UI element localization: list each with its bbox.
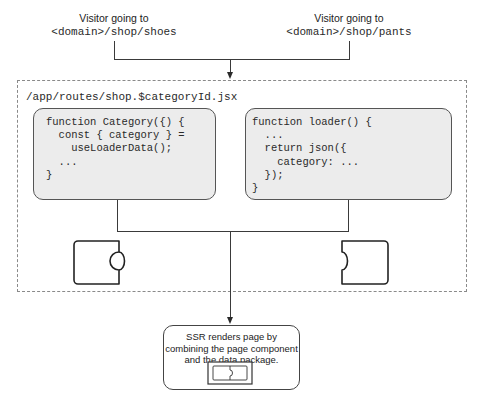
- connector-to-ssr: [230, 231, 231, 318]
- route-file-path: /app/routes/shop.$categoryId.jsx: [26, 91, 237, 103]
- code-line: const { category } =: [46, 129, 215, 142]
- connector-loader-down: [348, 200, 349, 232]
- visitor-shoes-label: Visitor going to: [14, 12, 214, 24]
- arrow-down-icon: [227, 72, 233, 79]
- connector-bottom-horizontal: [117, 231, 349, 232]
- code-line: useLoaderData();: [46, 142, 215, 155]
- code-line: }: [46, 169, 215, 182]
- ssr-text-line: combining the page component: [164, 343, 299, 355]
- visitor-pants-label: Visitor going to: [249, 12, 449, 24]
- combined-puzzle-icon: [207, 361, 253, 385]
- visitor-shoes-url: <domain>/shop/shoes: [14, 26, 214, 38]
- data-package-puzzle-icon: [338, 239, 392, 287]
- arrow-down-icon: [227, 317, 233, 324]
- loader-code-box: function loader() { ... return json({ ca…: [245, 108, 452, 200]
- connector-shoes-down: [114, 41, 115, 60]
- code-line: ...: [252, 129, 451, 142]
- visitor-pants-url: <domain>/shop/pants: [249, 26, 449, 38]
- code-line: ...: [46, 156, 215, 169]
- code-line: function loader() {: [252, 116, 451, 129]
- connector-component-down: [117, 200, 118, 232]
- ssr-text-line: SSR renders page by: [164, 331, 299, 343]
- code-line: }: [252, 182, 451, 195]
- connector-top-horizontal: [114, 59, 350, 60]
- connector-top-center: [230, 59, 231, 73]
- page-component-puzzle-icon: [72, 239, 132, 287]
- code-line: function Category({) {: [46, 116, 215, 129]
- code-line: category: ...: [252, 156, 451, 169]
- code-line: return json({: [252, 142, 451, 155]
- connector-pants-down: [349, 41, 350, 60]
- code-line: });: [252, 169, 451, 182]
- component-code-box: function Category({) { const { category …: [33, 108, 216, 200]
